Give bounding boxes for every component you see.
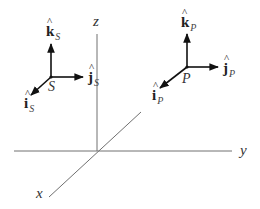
origin-p-point	[185, 65, 188, 68]
origin-s-label: S	[48, 80, 55, 94]
x-axis	[49, 112, 141, 197]
y-axis-label: y	[240, 143, 247, 158]
k-s-label: ^kS	[46, 24, 60, 42]
k-p-label: ^kP	[181, 15, 196, 33]
frame-s	[31, 44, 83, 95]
x-axis-label: x	[36, 186, 43, 201]
i-s-label: ^iS	[24, 96, 34, 114]
j-s-label: ^jS	[88, 70, 99, 88]
origin-p-label: P	[182, 72, 191, 86]
j-p-label: ^jP	[223, 61, 235, 79]
coordinate-diagram	[0, 0, 260, 209]
i-p-label: ^iP	[152, 88, 163, 106]
z-axis-label: z	[93, 14, 99, 29]
